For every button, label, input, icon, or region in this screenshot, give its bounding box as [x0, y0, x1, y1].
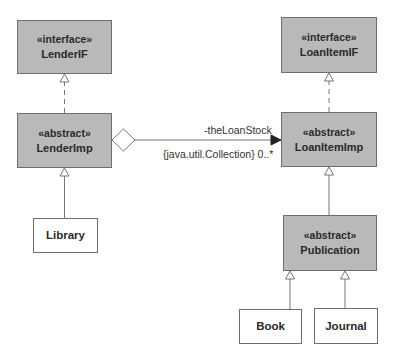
class-name: LenderIF: [41, 47, 87, 62]
class-name: LenderImp: [36, 141, 92, 156]
generalization-library-lenderimp: [60, 168, 69, 218]
stereotype-label: «abstract»: [304, 228, 357, 243]
association-constraint-label: {java.util.Collection} 0..*: [163, 148, 273, 160]
class-library[interactable]: Library: [33, 218, 98, 253]
class-name: Publication: [300, 243, 359, 258]
stereotype-label: «interface»: [37, 32, 92, 47]
class-name: LoanItemIF: [300, 45, 359, 60]
class-name: Book: [256, 319, 285, 334]
class-name: Library: [46, 228, 85, 243]
class-loanitemimp[interactable]: «abstract» LoanItemImp: [281, 112, 377, 167]
class-name: LoanItemImp: [295, 140, 363, 155]
realization-lenderimp-lenderif: [60, 74, 69, 113]
class-lenderimp[interactable]: «abstract» LenderImp: [17, 113, 112, 168]
generalization-publication-loanitemimp: [325, 167, 334, 215]
stereotype-label: «abstract»: [303, 125, 356, 140]
stereotype-label: «interface»: [301, 30, 356, 45]
class-name: Journal: [325, 319, 367, 334]
generalization-journal-publication: [341, 271, 350, 308]
navigability-arrow-icon: [271, 135, 281, 145]
stereotype-label: «abstract»: [38, 126, 91, 141]
class-publication[interactable]: «abstract» Publication: [283, 215, 377, 271]
uml-class-diagram: «interface» LenderIF «abstract» LenderIm…: [0, 0, 396, 353]
class-book[interactable]: Book: [239, 309, 302, 344]
class-lenderif[interactable]: «interface» LenderIF: [17, 20, 112, 74]
class-journal[interactable]: Journal: [314, 308, 378, 344]
generalization-book-publication: [286, 271, 295, 309]
class-loanitemif[interactable]: «interface» LoanItemIF: [281, 17, 377, 73]
aggregation-diamond-icon: [112, 129, 135, 151]
association-role-label: -theLoanStock: [204, 124, 272, 136]
realization-loanitemimp-loanitemif: [325, 73, 334, 112]
